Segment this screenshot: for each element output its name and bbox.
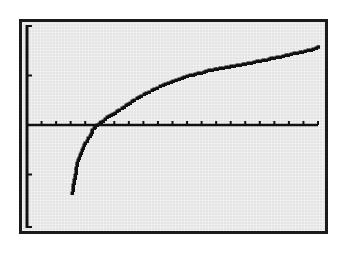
curve-pixel — [262, 59, 266, 63]
curve-pixel — [282, 55, 286, 59]
curve-pixel — [167, 82, 171, 86]
curve-pixel — [156, 87, 160, 91]
curve-pixel — [290, 53, 294, 57]
curve-pixel — [219, 67, 223, 71]
curve-pixel — [208, 69, 212, 73]
function-curve — [71, 45, 321, 195]
curve-pixel — [78, 157, 82, 161]
curve-pixel — [140, 95, 144, 99]
curve-pixel — [175, 79, 179, 83]
graph-plot — [0, 0, 347, 254]
curve-pixel — [287, 54, 291, 58]
curve-pixel — [118, 109, 122, 113]
curve-pixel — [76, 162, 80, 166]
curve-pixel — [239, 64, 243, 68]
curve-pixel — [86, 140, 90, 144]
curve-pixel — [236, 64, 240, 68]
curve-pixel — [133, 99, 137, 103]
curve-pixel — [276, 56, 280, 60]
curve-pixel — [73, 182, 77, 186]
curve-pixel — [259, 60, 263, 64]
curve-pixel — [148, 91, 152, 95]
curve-pixel — [296, 52, 300, 56]
curve-pixel — [304, 50, 308, 54]
curve-pixel — [307, 49, 311, 53]
curve-pixel — [189, 74, 193, 78]
curve-pixel — [75, 172, 79, 176]
curve-pixel — [159, 85, 163, 89]
curve-pixel — [205, 70, 209, 74]
curve-pixel — [80, 152, 84, 156]
curve-pixel — [75, 167, 79, 171]
curve-pixel — [74, 177, 78, 181]
curve-pixel — [279, 56, 283, 60]
curve-pixel — [317, 45, 321, 49]
curve-pixel — [178, 78, 182, 82]
curve-pixel — [211, 69, 215, 73]
curve-pixel — [250, 62, 254, 66]
curve-pixel — [233, 65, 237, 69]
curve-pixel — [265, 59, 269, 63]
curve-pixel — [256, 60, 260, 64]
axes — [27, 25, 318, 228]
curve-pixel — [197, 72, 201, 76]
curve-pixel — [216, 68, 220, 72]
curve-pixel — [71, 192, 75, 196]
curve-pixel — [164, 83, 168, 87]
curve-pixel — [145, 92, 149, 96]
curve-pixel — [244, 63, 248, 67]
curve-pixel — [273, 57, 277, 61]
curve-pixel — [312, 48, 316, 52]
curve-pixel — [293, 52, 297, 56]
curve-pixel — [72, 187, 76, 191]
curve-pixel — [222, 67, 226, 71]
curve-pixel — [253, 61, 257, 65]
curve-pixel — [247, 62, 251, 66]
curve-pixel — [153, 88, 157, 92]
curve-pixel — [301, 51, 305, 55]
curve-pixel — [270, 57, 274, 61]
curve-pixel — [194, 73, 198, 77]
curve-pixel — [82, 147, 86, 151]
curve-pixel — [230, 65, 234, 69]
curve-pixel — [186, 75, 190, 79]
curve-pixel — [225, 66, 229, 70]
curve-pixel — [200, 72, 204, 76]
curve-pixel — [183, 76, 187, 80]
curve-pixel — [172, 80, 176, 84]
